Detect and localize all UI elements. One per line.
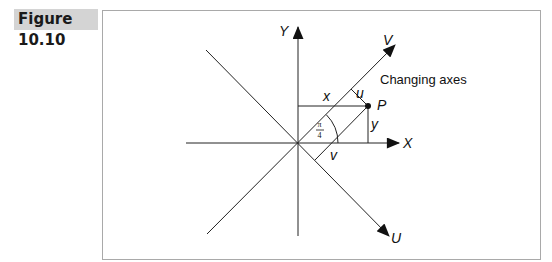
point-p-label: P <box>377 97 387 113</box>
x-axis-label: X <box>402 135 413 151</box>
point-p <box>365 103 371 109</box>
v-segment-label: v <box>330 147 338 163</box>
diagram-caption: Changing axes <box>380 72 467 87</box>
u-axis-label: U <box>391 230 402 246</box>
changing-axes-diagram: Y V X U P x u y v Changing axes π 4 <box>0 0 552 262</box>
v-axis-label: V <box>383 32 394 48</box>
y-axis-label: Y <box>279 23 290 39</box>
angle-numerator: π <box>318 120 322 129</box>
u-segment-label: u <box>356 85 364 101</box>
angle-denominator: 4 <box>318 131 322 140</box>
x-segment-label: x <box>322 88 331 104</box>
v-axis <box>207 45 395 234</box>
y-segment-label: y <box>370 116 379 132</box>
v-projection-line <box>315 106 368 160</box>
